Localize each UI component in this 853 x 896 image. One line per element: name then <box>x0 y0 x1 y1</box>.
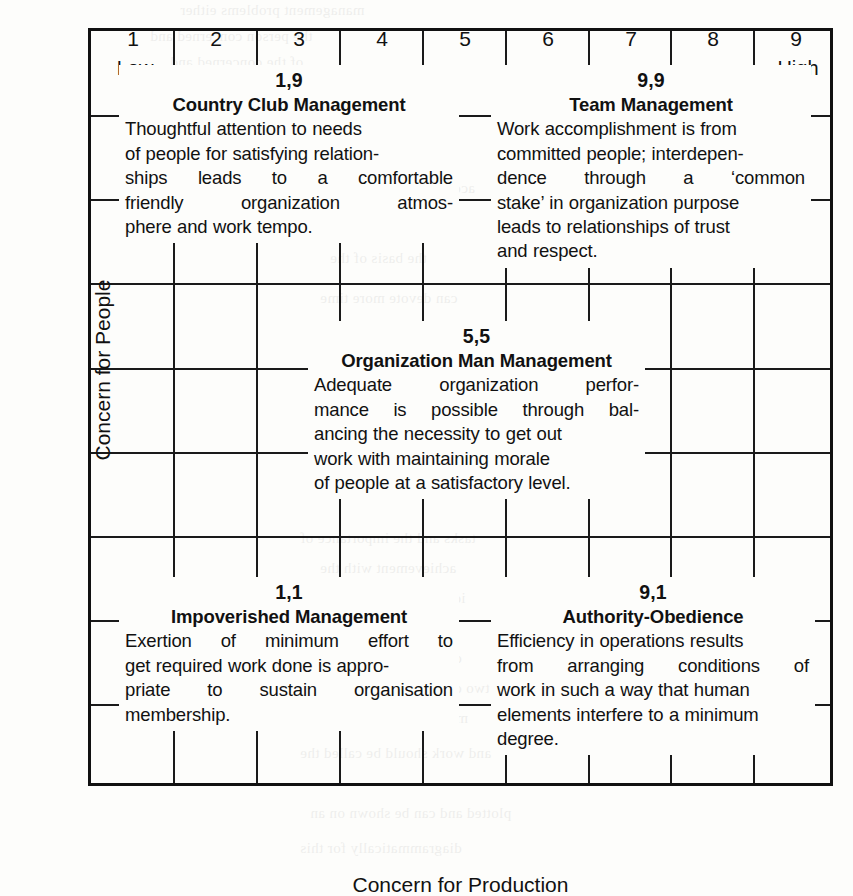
cell-5-5-line-5: of people at a satisfactory level. <box>314 471 639 495</box>
cell-1-9-line-2: of people for satisfying relation- <box>125 142 453 166</box>
cell-1-1-impoverished-management: 1,1 Impoverished Management Exertionofmi… <box>119 577 459 731</box>
cell-1-9-line-4: friendlyorganizationatmos- <box>125 191 453 215</box>
y-axis-title: Concern for People <box>91 205 115 535</box>
x-axis-title: Concern for Production <box>88 873 833 896</box>
cell-1-9-body: Thoughtful attention to needs of people … <box>125 117 453 239</box>
x-tick-label-3: 3 <box>269 28 329 49</box>
cell-9-1-line-5: degree. <box>497 727 809 751</box>
x-tick-label-5: 5 <box>435 28 495 49</box>
cell-9-1-body: Efficiency in operations results fromarr… <box>497 629 809 751</box>
cell-9-9-line-3: dencethrougha‘common <box>497 166 805 190</box>
x-tick-label-6: 6 <box>518 28 578 49</box>
cell-1-9-line-5: phere and work tempo. <box>125 215 453 239</box>
cell-9-1-line-2: fromarrangingconditionsof <box>497 654 809 678</box>
cell-5-5-line-3: ancing the necessity to get out <box>314 422 639 446</box>
cell-9-1-line-3: work in such a way that human <box>497 678 809 702</box>
cell-9-9-line-6: and respect. <box>497 239 805 263</box>
cell-5-5-code: 5,5 <box>314 325 639 349</box>
cell-1-1-line-1: Exertionofminimumeffortto <box>125 629 453 653</box>
cell-1-1-code: 1,1 <box>125 581 453 605</box>
cell-9-9-line-2: committed people; interdepen- <box>497 142 805 166</box>
cell-1-9-line-3: shipsleadstoacomfortable <box>125 166 453 190</box>
x-tick-label-9: 9 <box>766 28 826 49</box>
cell-1-1-line-3: priatetosustainorganisation <box>125 678 453 702</box>
cell-9-1-line-4: elements interfere to a minimum <box>497 703 809 727</box>
cell-1-1-title: Impoverished Management <box>125 605 453 629</box>
cell-9-9-title: Team Management <box>497 93 805 117</box>
cell-9-9-line-1: Work accomplishment is from <box>497 117 805 141</box>
x-tick-label-4: 4 <box>352 28 412 49</box>
cell-5-5-organization-man-management: 5,5 Organization Man Management Adequate… <box>308 321 645 499</box>
cell-9-9-line-4: stake’ in organization purpose <box>497 191 805 215</box>
cell-9-1-authority-obedience: 9,1 Authority-Obedience Efficiency in op… <box>491 577 815 755</box>
cell-1-9-country-club-management: 1,9 Country Club Management Thoughtful a… <box>119 65 459 243</box>
cell-9-1-line-1: Efficiency in operations results <box>497 629 809 653</box>
cell-1-9-code: 1,9 <box>125 69 453 93</box>
cell-1-9-line-1: Thoughtful attention to needs <box>125 117 453 141</box>
x-tick-label-2: 2 <box>186 28 246 49</box>
cell-1-1-body: Exertionofminimumeffortto get required w… <box>125 629 453 727</box>
cell-1-9-title: Country Club Management <box>125 93 453 117</box>
cell-5-5-line-4: work with maintaining morale <box>314 447 639 471</box>
cell-9-1-title: Authority-Obedience <box>497 605 809 629</box>
cell-9-1-code: 9,1 <box>497 581 809 605</box>
cell-5-5-title: Organization Man Management <box>314 349 639 373</box>
cell-9-9-line-5: leads to relationships of trust <box>497 215 805 239</box>
cell-1-1-line-4: membership. <box>125 703 453 727</box>
x-tick-label-8: 8 <box>683 28 743 49</box>
cell-9-9-body: Work accomplishment is from committed pe… <box>497 117 805 263</box>
cell-5-5-body: Adequateorganizationperfor- manceispossi… <box>314 373 639 495</box>
cell-5-5-line-2: manceispossiblethroughbal- <box>314 398 639 422</box>
cell-1-1-line-2: get required work done is appro- <box>125 654 453 678</box>
x-tick-label-1: 1 <box>103 28 163 49</box>
x-tick-label-7: 7 <box>601 28 661 49</box>
cell-5-5-line-1: Adequateorganizationperfor- <box>314 373 639 397</box>
cell-9-9-code: 9,9 <box>497 69 805 93</box>
cell-9-9-team-management: 9,9 Team Management Work accomplishment … <box>491 65 811 268</box>
